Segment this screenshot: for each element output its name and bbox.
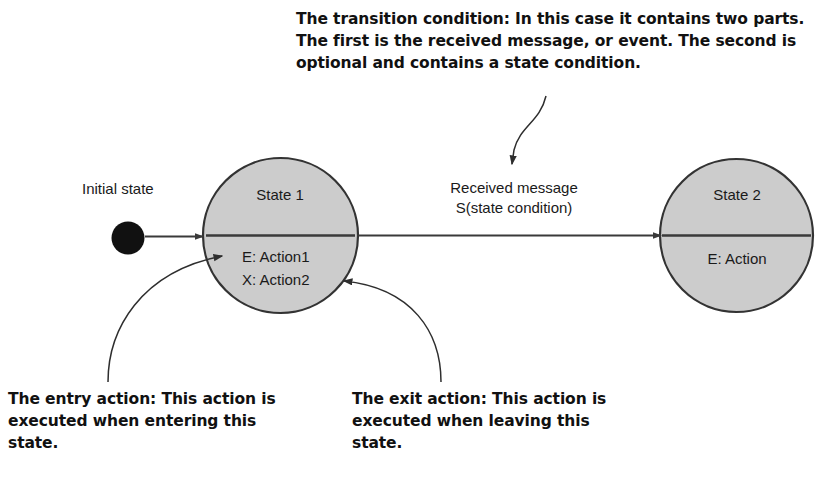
state-2-name: State 2: [672, 186, 802, 203]
initial-state-dot: [112, 222, 145, 255]
state-2-actions: E: Action: [672, 250, 802, 267]
diagram-canvas: The transition condition: In this case i…: [0, 0, 836, 489]
exit-callout-leader: [344, 281, 441, 382]
state-1-name: State 1: [215, 186, 345, 203]
entry-callout-leader: [108, 256, 222, 382]
transition-callout-leader: [512, 96, 546, 164]
callout-transition-condition: The transition condition: In this case i…: [296, 8, 832, 74]
state-1-actions: E: Action1 X: Action2: [215, 246, 345, 291]
initial-state-label: Initial state: [82, 180, 202, 197]
callout-exit-action: The exit action: This action is executed…: [352, 388, 632, 454]
callout-entry-action: The entry action: This action is execute…: [8, 388, 308, 454]
transition-condition-label: Received message S(state condition): [414, 178, 614, 219]
